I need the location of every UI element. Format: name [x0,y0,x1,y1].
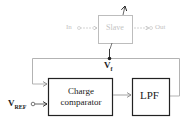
lpf-label: LPF [140,89,159,101]
vref-label: VREF [8,98,27,110]
vf-label: Vf [104,60,113,72]
slave-output-label: Out [155,23,166,31]
charge-comparator-label: Charge comparator [49,86,113,108]
slave-input-label: In [66,23,72,31]
block-diagram: In Slave Out Vf Charge comparator LPF VR… [0,0,190,126]
slave-label: Slave [106,23,124,32]
